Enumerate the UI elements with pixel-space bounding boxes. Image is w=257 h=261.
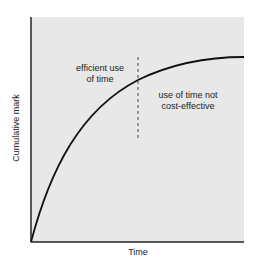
annotation-not-cost-effective: use of time not cost-effective <box>148 90 228 112</box>
annotation-line: use of time not <box>148 90 228 101</box>
annotation-line: cost-effective <box>148 101 228 112</box>
chart-plot <box>0 0 257 261</box>
annotation-line: of time <box>70 74 130 85</box>
annotation-efficient: efficient use of time <box>70 63 130 85</box>
annotation-line: efficient use <box>70 63 130 74</box>
y-axis-label: Cumulative mark <box>11 88 21 168</box>
x-axis-label: Time <box>118 247 158 258</box>
